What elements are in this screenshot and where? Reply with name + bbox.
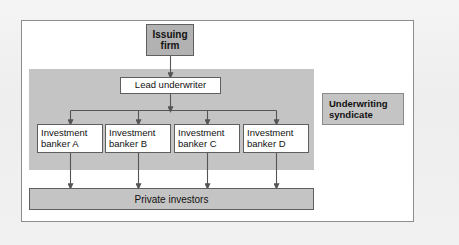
node-investment-banker-d: Investment banker D bbox=[243, 124, 309, 153]
legend-underwriting-syndicate-label: Underwriting syndicate bbox=[329, 98, 388, 121]
node-issuing-firm: Issuing firm bbox=[146, 24, 194, 56]
node-investment-banker-c: Investment banker C bbox=[174, 124, 240, 153]
node-investment-banker-b-label: Investment banker B bbox=[109, 128, 167, 150]
node-investment-banker-b: Investment banker B bbox=[105, 124, 171, 153]
node-lead-underwriter: Lead underwriter bbox=[120, 77, 221, 94]
node-investment-banker-a: Investment banker A bbox=[37, 124, 103, 153]
node-investment-banker-a-label: Investment banker A bbox=[41, 128, 99, 150]
node-issuing-firm-label: Issuing firm bbox=[147, 29, 193, 52]
node-investment-banker-d-label: Investment banker D bbox=[247, 128, 305, 150]
node-investment-banker-c-label: Investment banker C bbox=[178, 128, 236, 150]
node-lead-underwriter-label: Lead underwriter bbox=[135, 80, 206, 91]
node-private-investors-label: Private investors bbox=[135, 194, 209, 205]
node-private-investors: Private investors bbox=[29, 188, 314, 210]
legend-underwriting-syndicate: Underwriting syndicate bbox=[322, 93, 404, 125]
